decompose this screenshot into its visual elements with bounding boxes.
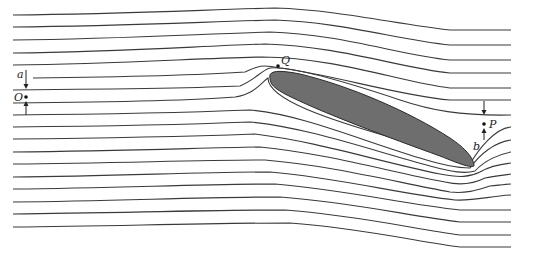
streamline-14 [13, 172, 511, 200]
streamline-17 [13, 210, 511, 235]
arrow-a-down-head [24, 84, 29, 89]
point-Q-dot [276, 64, 280, 68]
label-P: P [488, 118, 497, 131]
point-P-marker: P b [473, 101, 497, 153]
streamlines [13, 8, 511, 247]
streamline-3 [13, 32, 511, 60]
streamline-7 [13, 68, 511, 115]
label-O: O [14, 91, 23, 104]
streamline-16 [13, 197, 511, 222]
point-P-dot [482, 122, 486, 126]
airfoil-streamline-diagram: a O Q P b [0, 0, 558, 258]
label-Q: Q [281, 54, 290, 67]
point-Q-marker: Q [276, 54, 290, 68]
label-a: a [17, 68, 24, 81]
point-O-dot [24, 95, 28, 99]
streamline-18 [13, 223, 511, 247]
arrow-a-up-head [24, 101, 29, 106]
label-b: b [473, 140, 480, 153]
point-O-marker: a O [14, 68, 29, 115]
diagram-canvas: a O Q P b [0, 0, 558, 258]
streamline-1 [13, 8, 511, 30]
arrow-b-up-head [482, 128, 487, 133]
